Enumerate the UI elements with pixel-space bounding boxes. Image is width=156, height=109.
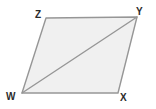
vertex-label-x: X bbox=[120, 93, 127, 103]
geometry-figure: Z Y W X bbox=[0, 0, 156, 109]
vertex-label-z: Z bbox=[35, 10, 41, 20]
vertex-label-w: W bbox=[6, 92, 16, 102]
parallelogram-diagram bbox=[0, 0, 156, 109]
vertex-label-y: Y bbox=[136, 7, 143, 17]
